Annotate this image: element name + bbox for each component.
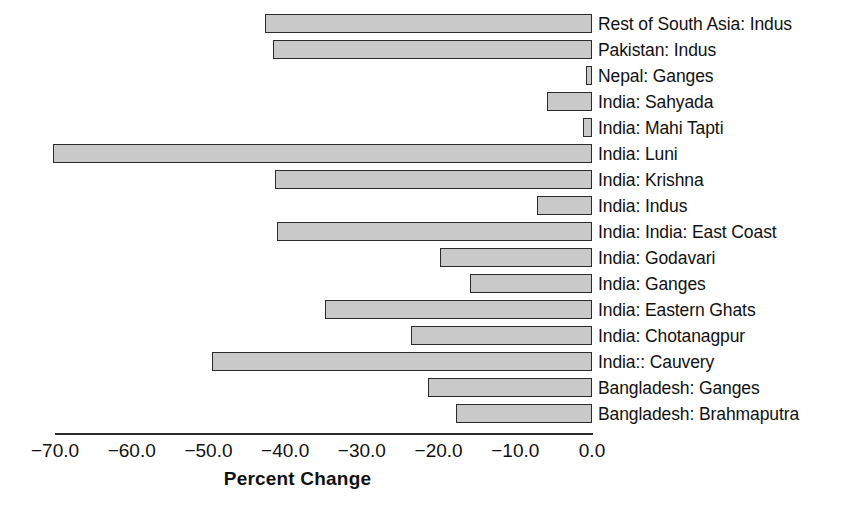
bar-category-label: India: Ganges xyxy=(598,271,706,297)
bar xyxy=(428,378,592,397)
bar-category-label: India:: Cauvery xyxy=(598,349,714,375)
x-tick-label: −60.0 xyxy=(108,438,156,464)
bar-row: India: Luni xyxy=(0,141,868,167)
bar-category-label: Rest of South Asia: Indus xyxy=(598,11,792,37)
bar-row: India: Godavari xyxy=(0,245,868,271)
bar-row: India:: Cauvery xyxy=(0,349,868,375)
bar-category-label: India: Sahyada xyxy=(598,89,713,115)
bar-category-label: Bangladesh: Brahmaputra xyxy=(598,401,799,427)
x-tick-label: −40.0 xyxy=(261,438,309,464)
bar-row: Nepal: Ganges xyxy=(0,63,868,89)
x-axis-title: Percent Change xyxy=(0,468,595,490)
bar xyxy=(583,118,592,137)
x-tick-label: −10.0 xyxy=(491,438,539,464)
bar-row: Bangladesh: Brahmaputra xyxy=(0,401,868,427)
bar-row: India: Krishna xyxy=(0,167,868,193)
bar-category-label: Nepal: Ganges xyxy=(598,63,713,89)
bar xyxy=(547,92,592,111)
x-tick-label: −50.0 xyxy=(184,438,232,464)
bar xyxy=(586,66,592,85)
bar-category-label: Pakistan: Indus xyxy=(598,37,716,63)
bar-category-label: India: Godavari xyxy=(598,245,715,271)
x-axis-tick-labels: −70.0−60.0−50.0−40.0−30.0−20.0−10.00.0 xyxy=(0,438,868,466)
bar xyxy=(277,222,592,241)
bar-row: India: Indus xyxy=(0,193,868,219)
bar xyxy=(265,14,592,33)
bar xyxy=(273,40,592,59)
bar-row: India: Eastern Ghats xyxy=(0,297,868,323)
bar-row: India: Mahi Tapti xyxy=(0,115,868,141)
bar xyxy=(470,274,592,293)
bar-category-label: India: Krishna xyxy=(598,167,704,193)
bar-category-label: India: Chotanagpur xyxy=(598,323,745,349)
bar-row: Rest of South Asia: Indus xyxy=(0,11,868,37)
x-tick-label: −20.0 xyxy=(415,438,463,464)
bar-category-label: India: Mahi Tapti xyxy=(598,115,723,141)
plot-area: Rest of South Asia: IndusPakistan: Indus… xyxy=(0,0,868,436)
bar-category-label: India: Indus xyxy=(598,193,687,219)
bar xyxy=(537,196,592,215)
bar-category-label: India: India: East Coast xyxy=(598,219,777,245)
bar xyxy=(440,248,592,267)
bar-row: India: Chotanagpur xyxy=(0,323,868,349)
bar-category-label: Bangladesh: Ganges xyxy=(598,375,760,401)
bar xyxy=(325,300,592,319)
bar xyxy=(53,144,592,163)
bar xyxy=(411,326,592,345)
bar-category-label: India: Eastern Ghats xyxy=(598,297,756,323)
x-tick-label: 0.0 xyxy=(579,438,605,464)
bar-row: Pakistan: Indus xyxy=(0,37,868,63)
bar-row: India: Sahyada xyxy=(0,89,868,115)
x-axis-line xyxy=(55,433,593,435)
x-tick-label: −70.0 xyxy=(31,438,79,464)
bar xyxy=(456,404,592,423)
bar-category-label: India: Luni xyxy=(598,141,678,167)
bar-row: India: India: East Coast xyxy=(0,219,868,245)
bar xyxy=(212,352,592,371)
bar-chart: Rest of South Asia: IndusPakistan: Indus… xyxy=(0,0,868,510)
bar-row: Bangladesh: Ganges xyxy=(0,375,868,401)
x-tick-label: −30.0 xyxy=(338,438,386,464)
bar-row: India: Ganges xyxy=(0,271,868,297)
bar xyxy=(275,170,592,189)
